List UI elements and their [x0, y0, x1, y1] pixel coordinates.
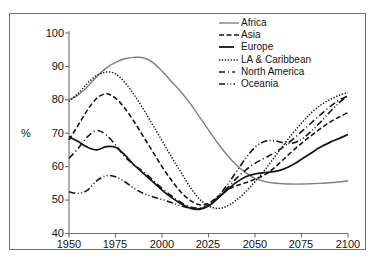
series-line-north-america [69, 96, 348, 208]
chart-figure: 100 90 80 70 60 50 40 % 1950 1975 2000 2… [0, 0, 378, 264]
series-line-europe [69, 135, 348, 210]
series-line-oceania [69, 95, 348, 208]
chart-axis-lines [69, 31, 348, 234]
series-line-africa [69, 57, 348, 184]
chart-series-lines [69, 57, 348, 209]
chart-plot-area [0, 0, 378, 264]
series-line-asia [69, 94, 348, 205]
